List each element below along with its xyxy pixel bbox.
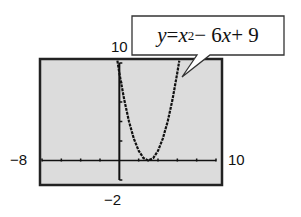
equation-minus-term: − 6	[194, 23, 222, 48]
xmin-label: −8	[10, 152, 27, 167]
plot-window-frame	[40, 59, 222, 185]
equation-var: x	[178, 23, 187, 48]
ymax-label: 10	[111, 39, 128, 54]
equation-equals: =	[167, 23, 179, 48]
equation-label: y = x2 − 6x + 9	[132, 16, 284, 55]
xmax-label: 10	[228, 152, 245, 167]
equation-lhs: y	[157, 23, 166, 48]
ymin-label: −2	[104, 192, 121, 207]
equation-var2: x	[222, 23, 231, 48]
equation-plus-term: + 9	[231, 23, 259, 48]
